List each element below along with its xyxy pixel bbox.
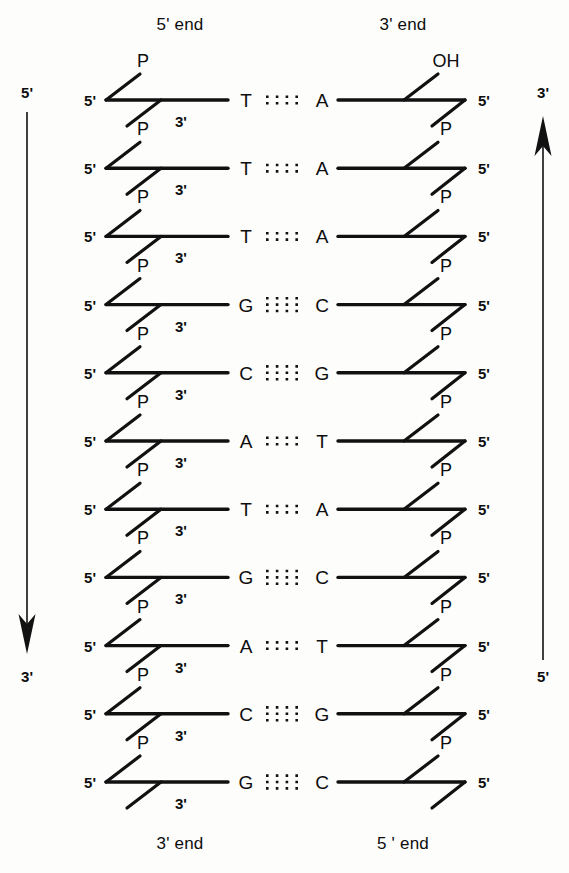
header-right-end-label: 3' end: [380, 16, 427, 33]
left-three-prime-label-4: 3': [175, 318, 187, 333]
left-arrow-top-label: 5': [21, 85, 33, 100]
base-right-7: A: [316, 500, 329, 519]
base-left-4: G: [239, 295, 254, 314]
left-three-prime-label-5: 3': [175, 386, 187, 401]
right-three-prime-arm-11: [404, 756, 438, 782]
hydrogen-bonds-1: [266, 97, 305, 103]
right-three-prime-arm-9: [404, 620, 438, 646]
right-three-prime-arm-10: [404, 688, 438, 714]
hydrogen-bonds-11: [266, 776, 305, 789]
left-three-prime-label-9: 3': [175, 659, 187, 674]
left-phosphate-label-3: P: [137, 188, 149, 206]
base-left-6: A: [240, 432, 253, 451]
right-arrow-top-label: 3': [537, 85, 549, 100]
right-five-prime-arm-11: [432, 782, 465, 808]
left-five-prime-label-7: 5': [84, 502, 96, 517]
left-three-prime-label-10: 3': [175, 727, 187, 742]
right-phosphate-label-9: P: [440, 598, 452, 616]
left-phosphate-label-2: P: [137, 120, 149, 138]
base-left-1: T: [240, 91, 252, 110]
right-three-prime-arm-4: [404, 279, 438, 305]
right-five-prime-label-10: 5': [478, 706, 490, 721]
left-phosphate-label-11: P: [137, 734, 149, 752]
base-right-10: G: [315, 704, 330, 723]
base-right-9: T: [316, 636, 328, 655]
base-right-3: A: [316, 227, 329, 246]
left-five-prime-label-1: 5': [84, 93, 96, 108]
right-three-prime-arm-2: [404, 142, 438, 168]
left-phosphate-label-10: P: [137, 666, 149, 684]
right-three-prime-arm-7: [404, 483, 438, 509]
hydrogen-bonds-3: [266, 233, 305, 239]
left-five-prime-label-11: 5': [84, 775, 96, 790]
hydrogen-bonds-9: [266, 642, 305, 648]
hydrogen-bonds-4: [266, 298, 305, 311]
left-five-prime-arm-6: [106, 415, 140, 441]
base-right-4: C: [315, 295, 329, 314]
left-five-prime-arm-5: [106, 347, 140, 373]
left-three-prime-label-6: 3': [175, 455, 187, 470]
base-right-1: A: [316, 91, 329, 110]
left-five-prime-arm-7: [106, 483, 140, 509]
hydrogen-bonds-8: [266, 571, 305, 584]
left-five-prime-label-6: 5': [84, 434, 96, 449]
footer-left-end-label: 3' end: [157, 835, 204, 852]
base-left-8: G: [239, 568, 254, 587]
left-five-prime-label-5: 5': [84, 365, 96, 380]
left-five-prime-arm-4: [106, 279, 140, 305]
left-three-prime-label-3: 3': [175, 250, 187, 265]
hydrogen-bonds-6: [266, 438, 305, 444]
hydrogen-bonds-10: [266, 707, 305, 720]
right-five-prime-label-3: 5': [478, 229, 490, 244]
base-left-5: C: [239, 363, 253, 382]
left-five-prime-label-3: 5': [84, 229, 96, 244]
right-three-prime-arm-1: [404, 74, 438, 100]
right-three-prime-arm-5: [404, 347, 438, 373]
left-five-prime-label-4: 5': [84, 297, 96, 312]
right-arrow-bottom-label: 5': [537, 669, 549, 684]
left-phosphate-label-6: P: [137, 393, 149, 411]
right-five-prime-label-9: 5': [478, 638, 490, 653]
base-left-7: T: [240, 500, 252, 519]
left-phosphate-label-9: P: [137, 598, 149, 616]
right-phosphate-label-6: P: [440, 393, 452, 411]
left-three-prime-arm-11: [127, 782, 161, 808]
base-left-2: T: [240, 159, 252, 178]
footer-right-end-label: 5 ' end: [377, 835, 429, 852]
right-five-prime-label-2: 5': [478, 161, 490, 176]
right-phosphate-label-11: P: [440, 734, 452, 752]
hydrogen-bonds-5: [266, 366, 305, 379]
left-five-prime-arm-10: [106, 688, 140, 714]
left-three-prime-label-8: 3': [175, 591, 187, 606]
left-five-prime-label-9: 5': [84, 638, 96, 653]
left-five-prime-arm-9: [106, 620, 140, 646]
left-phosphate-label-8: P: [137, 529, 149, 547]
left-phosphate-label-4: P: [137, 257, 149, 275]
right-phosphate-label-3: P: [440, 188, 452, 206]
base-left-9: A: [240, 636, 253, 655]
right-phosphate-label-7: P: [440, 461, 452, 479]
right-five-prime-label-4: 5': [478, 297, 490, 312]
base-right-2: A: [316, 159, 329, 178]
left-three-prime-label-7: 3': [175, 523, 187, 538]
left-three-prime-label-11: 3': [175, 796, 187, 811]
right-five-prime-label-7: 5': [478, 502, 490, 517]
dna-structure-diagram: 5'3'P5'3'P5'3'P5'3'P5'3'P5'3'P5'3'P5'3'P…: [0, 0, 569, 873]
left-phosphate-label-1: P: [137, 52, 149, 70]
left-arrow-bottom-label: 3': [21, 669, 33, 684]
left-three-prime-label-2: 3': [175, 182, 187, 197]
left-phosphate-label-7: P: [137, 461, 149, 479]
right-five-prime-label-6: 5': [478, 434, 490, 449]
header-left-end-label: 5' end: [157, 16, 204, 33]
right-three-prime-arm-6: [404, 415, 438, 441]
left-five-prime-label-10: 5': [84, 706, 96, 721]
right-five-prime-label-11: 5': [478, 775, 490, 790]
right-five-prime-label-8: 5': [478, 570, 490, 585]
right-three-prime-arm-8: [404, 551, 438, 577]
hydrogen-bonds-2: [266, 165, 305, 171]
left-phosphate-label-5: P: [137, 325, 149, 343]
right-phosphate-label-2: P: [440, 120, 452, 138]
left-five-prime-label-2: 5': [84, 161, 96, 176]
right-five-prime-label-1: 5': [478, 93, 490, 108]
left-five-prime-arm-11: [106, 756, 140, 782]
